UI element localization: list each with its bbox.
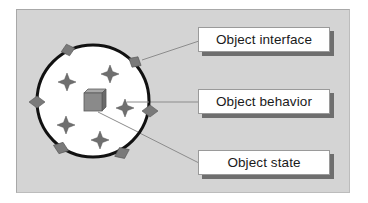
connector-interface xyxy=(142,41,199,60)
label-object-state: Object state xyxy=(198,150,330,175)
label-object-behavior: Object behavior xyxy=(198,89,330,114)
state-cube-icon xyxy=(84,89,106,111)
label-object-interface: Object interface xyxy=(198,27,330,52)
